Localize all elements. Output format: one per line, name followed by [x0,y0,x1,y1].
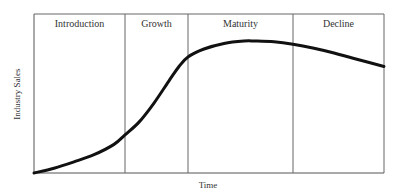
stage-label-decline: Decline [323,18,355,29]
sales-curve [34,41,384,173]
stage-label-growth: Growth [141,18,172,29]
stage-label-introduction: Introduction [55,18,104,29]
y-axis-label: Industry Sales [12,68,22,120]
stage-dividers [125,14,293,173]
plot-frame [34,14,384,173]
stage-labels: IntroductionGrowthMaturityDecline [55,18,355,29]
stage-label-maturity: Maturity [223,18,258,29]
x-axis-label: Time [199,180,218,190]
product-life-cycle-chart: IntroductionGrowthMaturityDecline Indust… [0,0,396,193]
